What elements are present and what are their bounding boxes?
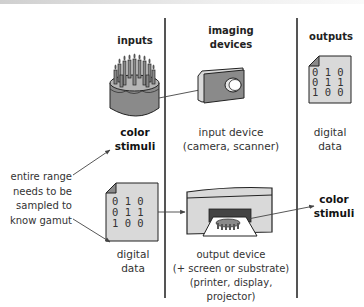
digital-data-output-label: digital data	[300, 125, 360, 153]
digital-data-input-label: digital data	[106, 247, 160, 275]
printer-icon	[187, 188, 272, 237]
note-to-stimuli-arrow	[73, 150, 110, 175]
output-device-label: output device (+ screen or substrate) (p…	[166, 248, 296, 304]
note-line: needs to be	[2, 185, 72, 200]
label-line: data	[300, 139, 360, 153]
note-line: sampled to	[2, 199, 72, 214]
label-line: color	[306, 192, 362, 206]
document-icon: 0 1 0 0 1 1 1 0 0	[309, 56, 351, 103]
label-line: digital	[300, 125, 360, 139]
note-to-data-arrow	[73, 219, 110, 242]
label-line: stimuli	[306, 206, 362, 220]
label-line: (+ screen or substrate)	[166, 262, 296, 276]
note-line: entire range	[2, 170, 72, 185]
label-line: (printer, display, projector)	[166, 276, 296, 304]
color-stimuli-input-label: color stimuli	[110, 125, 160, 153]
label-line: color	[110, 125, 160, 139]
color-stimuli-output-label: color stimuli	[306, 192, 362, 220]
label-line: data	[106, 261, 160, 275]
label-line: digital	[106, 247, 160, 261]
camera-icon	[198, 68, 244, 103]
note-line: know gamut	[2, 214, 72, 229]
data-row-3: 1 0 0	[312, 86, 344, 98]
label-line: (camera, scanner)	[166, 139, 296, 153]
gamut-note: entire range needs to be sampled to know…	[2, 170, 72, 228]
label-line: input device	[166, 125, 296, 139]
label-line: stimuli	[110, 139, 160, 153]
input-device-label: input device (camera, scanner)	[166, 125, 296, 153]
document-icon: 0 1 0 0 1 1 1 0 0	[106, 183, 158, 241]
label-line: output device	[166, 248, 296, 262]
birthday-cake-icon	[110, 54, 159, 117]
svg-text:1 0 0: 1 0 0	[112, 217, 144, 229]
